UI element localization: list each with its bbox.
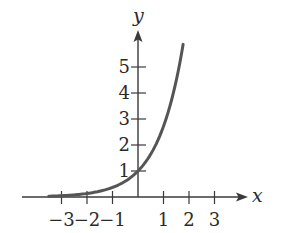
x-tick-label: 3 (209, 209, 220, 230)
y-tick-label: 3 (119, 108, 130, 129)
x-tick-label: 1 (158, 209, 169, 230)
y-axis-label: y (132, 4, 144, 26)
tick-labels: −3−2−112312345 (48, 56, 220, 230)
y-tick-label: 2 (119, 134, 130, 155)
exponential-curve (49, 44, 183, 196)
x-tick-label: −2 (74, 209, 101, 230)
exponential-graph: −3−2−112312345 x y (0, 0, 282, 233)
y-tick-label: 4 (119, 82, 130, 103)
y-tick-label: 5 (119, 56, 130, 77)
x-axis-label: x (252, 184, 263, 206)
x-tick-label: −3 (48, 209, 75, 230)
x-tick-label: −1 (99, 209, 126, 230)
x-tick-label: 2 (183, 209, 194, 230)
